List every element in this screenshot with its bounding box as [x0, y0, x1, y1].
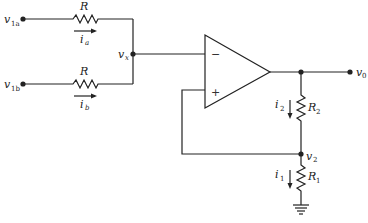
ground-icon	[293, 205, 309, 214]
arrow-icon	[288, 113, 293, 119]
svg-text:1a: 1a	[11, 20, 20, 28]
arrow-icon	[288, 183, 293, 189]
input-b-branch: v 1b R i b	[4, 65, 133, 112]
svg-text:2: 2	[313, 156, 317, 164]
svg-text:1: 1	[316, 177, 320, 185]
resistor-r1	[297, 154, 305, 205]
resistor-r2	[297, 72, 305, 154]
svg-text:R: R	[307, 101, 316, 114]
svg-text:R: R	[307, 170, 316, 183]
opamp: − +	[205, 35, 270, 108]
svg-text:i: i	[275, 98, 279, 111]
resistor-r-a-label: R	[79, 0, 88, 13]
output-terminal	[347, 69, 352, 74]
svg-text:v: v	[4, 78, 11, 91]
svg-text:i: i	[80, 33, 84, 46]
resistor-r-b-label: R	[79, 65, 88, 78]
svg-text:−: −	[211, 48, 220, 61]
svg-text:v: v	[4, 13, 11, 26]
svg-text:1b: 1b	[11, 85, 20, 93]
svg-text:2: 2	[316, 108, 320, 116]
svg-text:v: v	[118, 48, 125, 61]
svg-text:x: x	[125, 54, 129, 62]
svg-text:a: a	[85, 39, 89, 47]
svg-text:i: i	[275, 168, 279, 181]
input-a-branch: v 1a R i a	[4, 0, 133, 47]
svg-text:b: b	[85, 104, 90, 112]
arrow-icon	[91, 94, 97, 99]
svg-text:0: 0	[362, 72, 366, 80]
svg-text:1: 1	[280, 175, 284, 183]
svg-text:v: v	[306, 150, 313, 163]
circuit-diagram: v 1a R i a v 1b R i b v x − + v 0 R 2 i …	[0, 0, 368, 223]
svg-text:+: +	[211, 86, 220, 99]
svg-text:2: 2	[280, 105, 284, 113]
svg-text:i: i	[80, 98, 84, 111]
arrow-icon	[91, 29, 97, 34]
